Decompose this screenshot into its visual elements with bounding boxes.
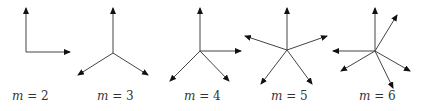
label-m5: m = 5 (271, 89, 308, 103)
arrow-vector-icon (287, 36, 327, 50)
arrow-vector-icon (113, 53, 148, 75)
label-m3: m = 3 (97, 89, 134, 103)
label-value: = 4 (195, 89, 220, 103)
arrow-vector-icon (200, 51, 229, 81)
label-variable: m (359, 89, 370, 103)
label-value: = 2 (23, 89, 48, 103)
arrow-vector-icon (245, 36, 287, 50)
diagram-m4 (170, 8, 241, 81)
label-variable: m (184, 89, 195, 103)
label-value: = 5 (282, 89, 307, 103)
label-m4: m = 4 (184, 89, 221, 103)
diagram-m3 (78, 8, 148, 75)
diagram-m5 (245, 8, 327, 84)
label-variable: m (271, 89, 282, 103)
label-value: = 6 (370, 89, 395, 103)
diagram-m2 (26, 8, 70, 52)
arrow-vector-icon (287, 50, 312, 84)
arrow-vector-icon (170, 51, 200, 81)
label-variable: m (97, 89, 108, 103)
arrow-vector-icon (341, 51, 375, 71)
arrow-vector-icon (78, 53, 113, 75)
label-value: = 3 (108, 89, 133, 103)
label-m2: m = 2 (12, 89, 49, 103)
label-variable: m (12, 89, 23, 103)
arrow-vector-icon (261, 50, 287, 84)
diagram-m6 (333, 8, 410, 88)
arrow-vector-icon (375, 15, 397, 51)
label-m6: m = 6 (359, 89, 396, 103)
